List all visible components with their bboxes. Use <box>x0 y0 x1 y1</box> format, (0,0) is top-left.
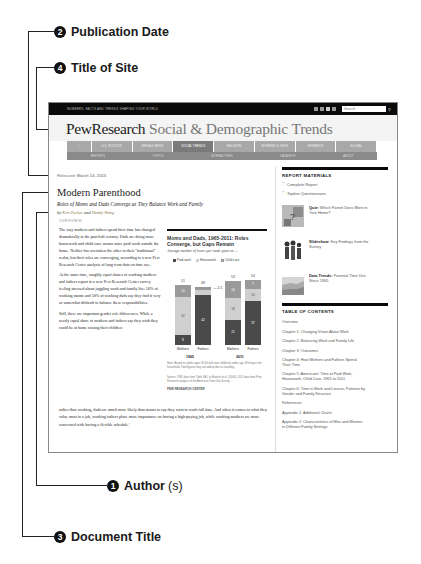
chart-plot: 8321051Mothers4248Fathers21181453Mothers… <box>167 269 267 359</box>
and-label: and <box>84 210 91 215</box>
social-icon[interactable] <box>326 107 330 111</box>
nav-religion[interactable]: Religion <box>214 141 254 152</box>
nav-hispanics[interactable]: Hispanics <box>296 141 336 152</box>
divider <box>282 303 388 306</box>
topline-questionnaire-link[interactable]: 🗎 Topline Questionnaire <box>282 190 398 197</box>
released-date: March 14, 2013 <box>77 173 106 178</box>
nav-internet-tech[interactable]: Internet & Tech <box>255 141 295 152</box>
x-axis-label: Mothers <box>175 347 191 351</box>
quiz-thumbnail-icon: ? <box>282 205 304 227</box>
nav-media-news[interactable]: Media & News <box>133 141 173 152</box>
author-link[interactable]: Kim Parker <box>62 210 83 215</box>
chart-bar: 83210 <box>175 285 191 345</box>
search-input[interactable]: Search <box>342 106 386 112</box>
toc-item[interactable]: References <box>282 401 366 406</box>
toc-item[interactable]: Overview <box>282 320 366 325</box>
toc-item[interactable]: Chapter 1: Changing Views About Work <box>282 330 366 335</box>
x-axis-label: Fathers <box>195 347 211 351</box>
report-materials-heading: REPORT MATERIALS <box>282 173 398 178</box>
group-label: 2011 <box>236 355 244 359</box>
time-use-chart: Moms and Dads, 1965-2011: Roles Converge… <box>167 229 267 399</box>
nav-social-trends[interactable]: Social Trends <box>173 141 213 152</box>
feature-data-trends[interactable]: Data Trends: Parental Time Use Since 196… <box>282 273 398 299</box>
bar-total: 51 <box>175 279 191 283</box>
paragraph: At the same time, roughly equal shares o… <box>59 272 161 307</box>
pdf-icon: 🗎 <box>282 190 285 197</box>
bar-segment: 10 <box>245 289 261 301</box>
number-badge: 2 <box>54 26 66 38</box>
byline: by Kim Parker and Wendy Wang <box>57 210 114 215</box>
nav-global[interactable]: Global <box>336 141 376 152</box>
primary-nav: ⌂ U.S. Politics Media & News Social Tren… <box>67 141 377 152</box>
table-of-contents: Overview Chapter 1: Changing Views About… <box>282 320 398 430</box>
x-axis-label: Fathers <box>245 347 261 351</box>
feature-slideshow[interactable]: Slideshow: Key Findings from the Survey <box>282 239 398 265</box>
search-icon[interactable]: ⚲ <box>388 107 391 112</box>
family-photo-icon <box>282 239 304 261</box>
callout-label: Publication Date <box>71 25 169 39</box>
toc-item[interactable]: Chapter 6: Time in Work and Leisure, Pat… <box>282 387 366 397</box>
site-title[interactable]: PewResearch Social & Demographic Trends <box>49 115 397 141</box>
secondary-nav: Reports Topics Interactives Datasets Abo… <box>67 152 377 160</box>
chart-bar: 37107 <box>245 280 261 345</box>
document-title: Modern Parenthood <box>57 187 141 198</box>
feature-quiz[interactable]: ? Quiz: Which Parent Does More in Your H… <box>282 205 398 231</box>
connector-line <box>22 192 23 537</box>
site-tagline: Numbers, facts and trends shaping your w… <box>67 107 314 111</box>
subnav-reports[interactable]: Reports <box>91 154 105 158</box>
legend-item: Child care <box>221 258 239 262</box>
top-bar: Numbers, facts and trends shaping your w… <box>49 103 397 115</box>
toc-item[interactable]: Chapter 2: Balancing Work and Family Lif… <box>282 339 366 344</box>
bar-segment: 32 <box>175 297 191 335</box>
connector-line <box>28 31 29 176</box>
connector-line <box>36 67 37 130</box>
callout-author: 1 Author (s) <box>107 479 183 493</box>
callout-publication-date: 2 Publication Date <box>54 25 169 39</box>
section-name: Social & Demographic Trends <box>149 120 333 138</box>
pdf-icon: 🗎 <box>282 181 285 188</box>
document-subtitle: Roles of Moms and Dads Converge as They … <box>57 201 203 207</box>
connector-line <box>28 31 54 32</box>
bar-total: 53 <box>225 275 241 279</box>
bar-total: 48 <box>195 281 211 285</box>
connector-line <box>36 485 107 486</box>
divider <box>282 167 388 170</box>
bar-segment: 14 <box>225 281 241 298</box>
brand-name: PewResearch <box>66 120 145 138</box>
bar-segment: 10 <box>175 285 191 297</box>
sidebar: REPORT MATERIALS 🗎 Complete Report 🗎 Top… <box>275 167 398 453</box>
subnav-about[interactable]: About <box>343 154 353 158</box>
subnav-topics[interactable]: Topics <box>152 154 163 158</box>
nav-us-politics[interactable]: U.S. Politics <box>92 141 132 152</box>
subnav-datasets[interactable]: Datasets <box>280 154 295 158</box>
toc-item[interactable]: Chapter 4: How Mothers and Fathers Spend… <box>282 358 366 368</box>
number-badge: 1 <box>107 480 119 492</box>
callout-document-title: 3 Document Title <box>54 530 161 544</box>
callout-label: Title of Site <box>71 61 138 75</box>
bar-segment: 18 <box>225 298 241 320</box>
chart-source: Source: 1965 data from Table 5A.1 in Bia… <box>167 376 267 383</box>
chart-bar: 211814 <box>225 281 241 345</box>
social-icon[interactable] <box>314 107 318 111</box>
toc-item[interactable]: Appendix 2: Characteristics of Men and W… <box>282 420 366 430</box>
connector-line <box>36 212 37 486</box>
complete-report-link[interactable]: 🗎 Complete Report <box>282 181 398 188</box>
callout-label: Author <box>124 479 165 493</box>
subnav-interactives[interactable]: Interactives <box>211 154 233 158</box>
article-body: The way mothers and fathers spend their … <box>59 227 161 336</box>
chart-title: Moms and Dads, 1965-2011: Roles Converge… <box>167 235 267 247</box>
toc-item[interactable]: Appendix 1: Additional Charts <box>282 411 366 416</box>
toc-item[interactable]: Chapter 5: Americans' Time at Paid Work,… <box>282 372 366 382</box>
social-icon[interactable] <box>320 107 324 111</box>
section-label: OVERVIEW <box>59 219 82 223</box>
social-icon[interactable] <box>332 107 336 111</box>
x-axis-label: Mothers <box>225 347 241 351</box>
footnote-marker[interactable]: 1 <box>129 422 130 425</box>
released-label: Released: <box>57 173 76 178</box>
publication-date: Released: March 14, 2013 <box>57 173 106 178</box>
bar-segment: 42 <box>195 295 211 345</box>
nav-home[interactable]: ⌂ <box>67 141 91 152</box>
connector-line <box>22 536 54 537</box>
toc-item[interactable]: Chapter 3: Outcomes <box>282 349 366 354</box>
author-link[interactable]: Wendy Wang <box>92 210 114 215</box>
